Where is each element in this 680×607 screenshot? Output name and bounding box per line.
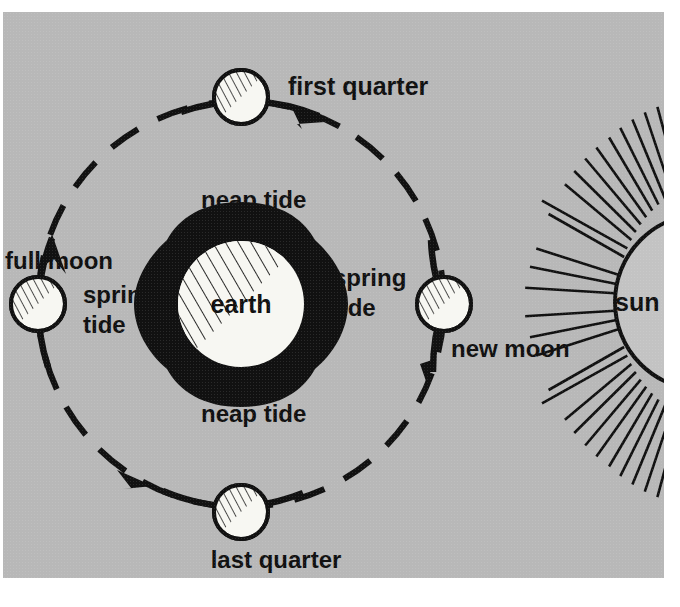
last-quarter-label: last quarter — [211, 546, 342, 573]
full-moon — [11, 277, 65, 331]
first-quarter-label: first quarter — [288, 72, 429, 100]
last-quarter-moon — [214, 485, 268, 539]
sun-label: sun — [615, 288, 659, 316]
spring-tide-left-label-line2: tide — [83, 311, 126, 338]
new-moon-label: new moon — [451, 335, 570, 362]
new-moon — [417, 277, 471, 331]
earth-group: earth — [134, 202, 348, 407]
tide-diagram: sun — [3, 12, 664, 578]
sun-group: sun — [525, 99, 664, 505]
spring-tide-right-label-line2: tide — [333, 294, 376, 321]
neap-tide-bottom-label: neap tide — [201, 400, 306, 427]
spring-tide-left-label-line1: spring — [83, 281, 156, 308]
full-moon-label: full moon — [5, 247, 113, 274]
first-quarter-moon — [214, 70, 268, 124]
spring-tide-right-label-line1: spring — [333, 264, 406, 291]
diagram-panel: sun — [3, 12, 664, 578]
orbit-arrow-last-quarter — [117, 470, 153, 489]
earth-label: earth — [210, 290, 271, 318]
figure-stage: sun — [0, 0, 680, 607]
neap-tide-top-label: neap tide — [201, 186, 306, 213]
